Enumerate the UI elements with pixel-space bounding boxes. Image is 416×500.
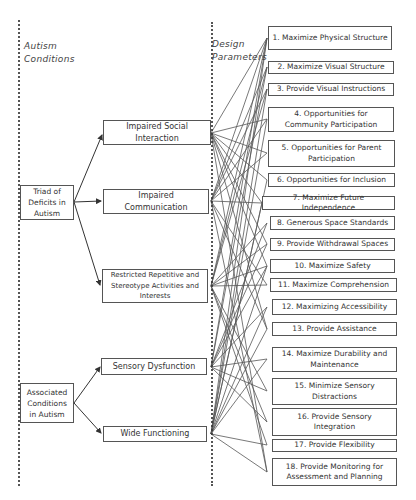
parameter-9-box: 9. Provide Withdrawal Spaces	[270, 238, 395, 251]
box-label: 9. Provide Withdrawal Spaces	[277, 239, 388, 250]
box-label: 1. Maximize Physical Structure	[272, 33, 387, 44]
triad-of-deficits-box: Triad of Deficits in Autism	[20, 185, 74, 220]
heading-line: Parameters	[212, 51, 267, 64]
box-label: 2. Maximize Visual Structure	[277, 62, 384, 73]
parameter-10-box: 10. Maximize Safety	[270, 259, 395, 273]
parameter-8-box: 8. Generous Space Standards	[270, 216, 395, 230]
box-label: Restricted Repetitive and Stereotype Act…	[106, 270, 204, 302]
box-label: 16. Provide Sensory Integration	[276, 412, 393, 433]
right-column-divider	[211, 22, 213, 486]
box-label: 5. Opportunities for Parent Participatio…	[272, 143, 391, 164]
parameter-18-box: 18. Provide Monitoring for Assessment an…	[272, 458, 397, 486]
parameter-5-box: 5. Opportunities for Parent Participatio…	[268, 140, 395, 167]
design-parameters-heading: Design Parameters	[212, 38, 267, 64]
box-label: 6. Opportunities for Inclusion	[277, 175, 386, 186]
parameter-12-box: 12. Maximizing Accessibility	[272, 299, 397, 315]
heading-line: Design	[212, 38, 267, 51]
sensory-dysfunction-box: Sensory Dysfunction	[101, 358, 207, 375]
heading-line: Autism	[24, 40, 75, 53]
wide-functioning-box: Wide Functioning	[103, 426, 207, 442]
box-label: 3. Provide Visual Instructions	[277, 84, 386, 95]
impaired-social-interaction-box: Impaired Social Interaction	[103, 120, 211, 145]
autism-conditions-heading: Autism Conditions	[24, 40, 75, 66]
parameter-4-box: 4. Opportunities for Community Participa…	[268, 107, 394, 132]
box-label: 17. Provide Flexibility	[294, 440, 374, 451]
parameter-2-box: 2. Maximize Visual Structure	[268, 61, 394, 74]
restricted-repetitive-box: Restricted Repetitive and Stereotype Act…	[102, 269, 208, 303]
box-label: 8. Generous Space Standards	[277, 218, 388, 229]
box-label: 14. Maximize Durability and Maintenance	[276, 349, 393, 370]
box-label: Associated Conditions in Autism	[24, 387, 70, 420]
parameter-14-box: 14. Maximize Durability and Maintenance	[272, 347, 397, 372]
box-label: 15. Minimize Sensory Distractions	[276, 381, 393, 402]
box-label: 18. Provide Monitoring for Assessment an…	[276, 462, 393, 483]
parameter-7-box: 7. Maximize Future Independence	[262, 196, 395, 210]
parameter-3-box: 3. Provide Visual Instructions	[268, 83, 394, 96]
associated-conditions-box: Associated Conditions in Autism	[20, 383, 74, 423]
box-label: Sensory Dysfunction	[113, 361, 195, 373]
impaired-communication-box: Impaired Communication	[103, 189, 209, 214]
parameter-16-box: 16. Provide Sensory Integration	[272, 408, 397, 436]
box-label: 7. Maximize Future Independence	[266, 193, 391, 214]
parameter-1-box: 1. Maximize Physical Structure	[268, 26, 392, 50]
box-label: 11. Maximize Comprehension	[278, 280, 389, 291]
box-label: Triad of Deficits in Autism	[24, 186, 70, 219]
box-label: 12. Maximizing Accessibility	[282, 302, 387, 313]
parameter-6-box: 6. Opportunities for Inclusion	[268, 173, 395, 187]
box-label: 10. Maximize Safety	[294, 261, 370, 272]
box-label: 13. Provide Assistance	[292, 324, 376, 335]
parameter-15-box: 15. Minimize Sensory Distractions	[272, 378, 397, 405]
box-label: Impaired Communication	[107, 190, 205, 214]
parameter-13-box: 13. Provide Assistance	[272, 322, 397, 336]
box-label: 4. Opportunities for Community Participa…	[272, 109, 390, 130]
heading-line: Conditions	[24, 53, 75, 66]
box-label: Wide Functioning	[121, 428, 190, 440]
box-label: Impaired Social Interaction	[107, 121, 207, 145]
parameter-11-box: 11. Maximize Comprehension	[270, 278, 397, 292]
parameter-17-box: 17. Provide Flexibility	[272, 439, 397, 452]
